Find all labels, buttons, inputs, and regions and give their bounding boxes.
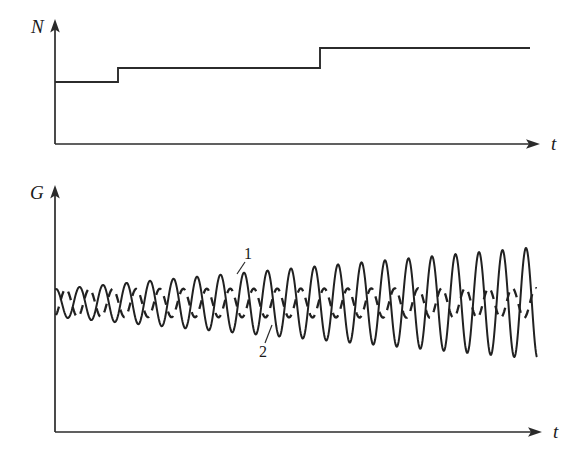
figure-svg: N t 1 2 G t xyxy=(0,0,581,467)
g-y-axis-label: G xyxy=(30,182,44,203)
n-y-axis-label: N xyxy=(30,16,45,37)
curve-2-leader-line xyxy=(265,325,272,343)
panel-g-oscillation-chart: 1 2 G t xyxy=(30,182,559,442)
figure-container: N t 1 2 G t xyxy=(0,0,581,467)
g-axes xyxy=(50,185,542,437)
g-x-axis-label: t xyxy=(553,421,559,442)
n-x-axis-label: t xyxy=(551,133,557,154)
n-step-curve xyxy=(55,48,530,82)
n-axes xyxy=(50,19,540,149)
curve-2-label: 2 xyxy=(259,343,267,360)
curve-2-callout: 2 xyxy=(259,325,272,360)
curve-1-callout: 1 xyxy=(237,245,252,274)
curve-1-label: 1 xyxy=(244,245,252,262)
panel-n-step-chart: N t xyxy=(30,16,557,154)
g-curve-1-solid xyxy=(56,248,537,357)
